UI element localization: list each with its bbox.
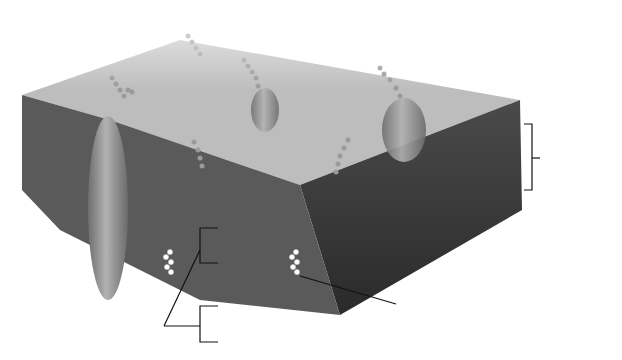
nonpolar-bracket xyxy=(524,124,532,190)
protein-right xyxy=(382,98,426,162)
bilayer-illustration xyxy=(0,0,622,360)
polar-bracket-lower xyxy=(200,306,218,342)
protein-middle xyxy=(251,88,279,132)
membrane-diagram xyxy=(0,0,622,360)
protein-left xyxy=(88,116,128,300)
